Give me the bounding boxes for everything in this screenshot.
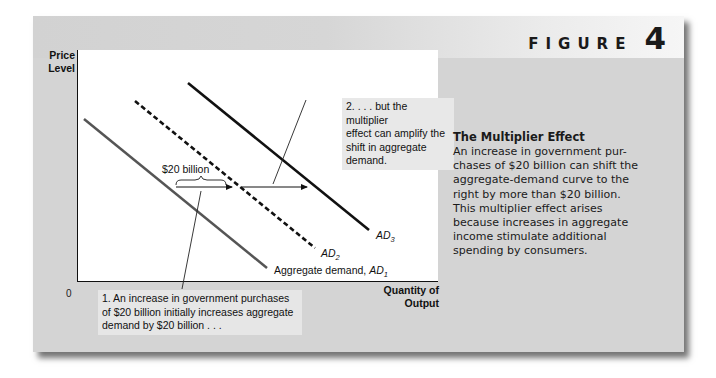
- x-axis-label: Quantity of Output: [363, 284, 439, 310]
- ad1-sub: 1: [384, 270, 388, 279]
- figure-caption: The Multiplier Effect An increase in gov…: [453, 130, 663, 259]
- ad3-label: AD3: [376, 229, 395, 244]
- note1-line: demand by $20 billion . . .: [102, 319, 298, 333]
- note2-line: demand.: [346, 154, 450, 168]
- note1-line: of $20 billion initially increases aggre…: [102, 306, 298, 320]
- caption-title: The Multiplier Effect: [453, 130, 663, 145]
- caption-line: right by more than $20 billion.: [453, 188, 663, 202]
- note2-line: shift in aggregate: [346, 141, 450, 155]
- ad1-label: Aggregate demand, AD1: [274, 264, 388, 279]
- note2-line: effect can amplify the: [346, 127, 450, 141]
- caption-line: chases of $20 billion can shift the: [453, 159, 663, 173]
- ad3-name: AD: [376, 229, 391, 241]
- ad1-name: AD: [369, 264, 384, 276]
- ad1-curve: [84, 119, 267, 268]
- caption-body: An increase in government pur- chases of…: [453, 145, 663, 259]
- note-initial-increase: 1. An increase in government purchases o…: [98, 290, 302, 335]
- ad2-label: AD2: [321, 247, 340, 262]
- caption-line: spending by consumers.: [453, 244, 663, 258]
- note-multiplier: 2. . . . but the multiplier effect can a…: [342, 98, 454, 170]
- x-axis-label-line1: Quantity of: [363, 284, 439, 297]
- caption-line: An increase in government pur-: [453, 145, 663, 159]
- caption-line: income stimulate additional: [453, 230, 663, 244]
- ad3-sub: 3: [391, 235, 395, 244]
- brace: [176, 176, 226, 185]
- caption-line: aggregate-demand curve to the: [453, 173, 663, 187]
- note2-line: 2. . . . but the multiplier: [346, 100, 450, 127]
- leader-line-2: [273, 100, 306, 184]
- note1-line: 1. An increase in government purchases: [102, 292, 298, 306]
- ad2-name: AD: [321, 247, 336, 259]
- x-axis-label-line2: Output: [363, 297, 439, 310]
- origin-label: 0: [66, 288, 72, 299]
- caption-line: because increases in aggregate: [453, 216, 663, 230]
- ad1-prefix: Aggregate demand,: [274, 264, 369, 276]
- ad2-sub: 2: [336, 253, 340, 262]
- caption-line: This multiplier effect arises: [453, 202, 663, 216]
- shift-amount-label: $20 billion: [162, 163, 209, 175]
